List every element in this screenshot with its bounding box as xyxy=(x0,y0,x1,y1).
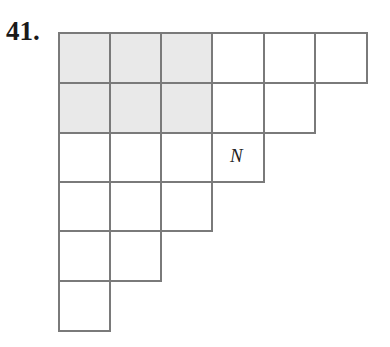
cell-label-n: N xyxy=(230,145,243,167)
grid-cell xyxy=(58,82,111,134)
grid-cell xyxy=(109,82,162,134)
grid-cell xyxy=(58,230,111,282)
grid-cell xyxy=(58,132,111,183)
grid-cell xyxy=(58,280,111,332)
grid-cell xyxy=(109,32,162,84)
grid-cell xyxy=(160,132,213,183)
grid-cell xyxy=(160,32,213,84)
grid-cell xyxy=(58,32,111,84)
grid-cell xyxy=(263,82,316,134)
grid-cell xyxy=(211,32,265,84)
grid-cell xyxy=(109,132,162,183)
grid-cell xyxy=(58,181,111,232)
grid-cell xyxy=(109,181,162,232)
grid-cell xyxy=(314,32,368,84)
grid-cell xyxy=(160,82,213,134)
grid-cell xyxy=(263,32,316,84)
problem-number: 41. xyxy=(6,16,40,47)
grid-cell xyxy=(211,82,265,134)
grid-cell xyxy=(160,181,213,232)
grid-cell xyxy=(109,230,162,282)
